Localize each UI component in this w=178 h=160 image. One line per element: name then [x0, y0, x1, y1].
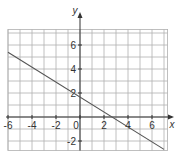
- x-tick-label: 6: [149, 120, 155, 131]
- y-axis-arrow-icon: [78, 12, 83, 18]
- x-tick-label: 2: [101, 120, 107, 131]
- data-series: [8, 52, 164, 149]
- x-tick-label: -4: [28, 120, 37, 131]
- y-axis-label: y: [72, 5, 79, 16]
- tick-labels: -6-4-20246-2246xy: [4, 5, 176, 147]
- coordinate-plane: -6-4-20246-2246xy: [0, 0, 178, 160]
- y-tick-label: 6: [70, 40, 76, 51]
- line-series: [8, 52, 164, 149]
- grid-lines: [8, 29, 168, 150]
- x-tick-label: -6: [4, 120, 13, 131]
- y-tick-label: -2: [67, 136, 76, 147]
- x-tick-label: -2: [52, 120, 61, 131]
- x-axis-label: x: [169, 119, 176, 130]
- x-tick-label: 0: [73, 120, 79, 131]
- y-tick-label: 4: [70, 64, 76, 75]
